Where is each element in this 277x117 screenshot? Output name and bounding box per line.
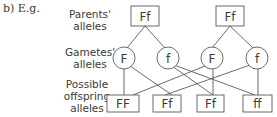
connector-line [212, 26, 230, 48]
gamete-allele: F [209, 52, 216, 66]
gamete-allele: F [121, 52, 128, 66]
parent-box-1: Ff [131, 6, 159, 26]
offspring-genotype: Ff [205, 97, 217, 111]
gamete-circle-3: F [201, 47, 223, 69]
gamete-circle-4: f [246, 47, 268, 69]
offspring-box-1: FF [107, 95, 139, 112]
connector-line [127, 26, 145, 48]
genetic-cross-diagram: Ff Ff F f F f FF Ff Ff ff [0, 0, 277, 117]
offspring-genotype: ff [253, 97, 262, 111]
parent-box-2: Ff [216, 6, 244, 26]
gamete-circle-2: f [157, 47, 179, 69]
offspring-genotype: FF [116, 97, 130, 111]
offspring-box-2: Ff [153, 95, 181, 112]
connector-line [145, 26, 165, 48]
offspring-box-3: Ff [197, 95, 224, 112]
connector-line [230, 26, 253, 48]
connector-line [165, 65, 250, 95]
parent-genotype: Ff [139, 10, 151, 24]
connector-line [133, 66, 205, 95]
connector-line [130, 66, 172, 95]
parent-genotype: Ff [224, 10, 236, 24]
connector-line [174, 65, 255, 95]
offspring-box-4: ff [243, 95, 272, 112]
gamete-circle-1: F [113, 47, 135, 69]
offspring-genotype: Ff [161, 97, 173, 111]
